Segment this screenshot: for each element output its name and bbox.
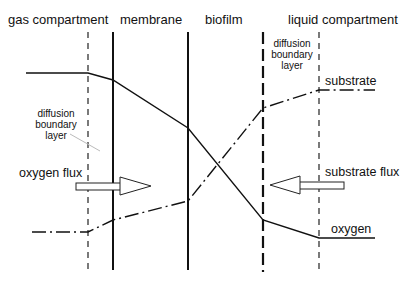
dbl-right-line2: boundary: [265, 49, 319, 60]
dbl-left-line2: boundary: [30, 119, 82, 130]
substrate-profile: [32, 90, 375, 232]
substrate-flux-label: substrate flux: [325, 166, 399, 179]
substrate-label: substrate: [325, 75, 376, 88]
dbl-right-line1: diffusion: [265, 38, 319, 49]
header-gas-compartment: gas compartment: [8, 13, 108, 26]
biofilm-diagram: gas compartment membrane biofilm liquid …: [0, 0, 420, 285]
oxygen-flux-label: oxygen flux: [19, 167, 82, 180]
header-liquid-compartment: liquid compartment: [288, 13, 398, 26]
oxygen-label: oxygen: [331, 223, 371, 236]
dbl-right-line3: layer: [265, 60, 319, 71]
right-dbl-label: diffusion boundary layer: [265, 38, 319, 71]
header-membrane: membrane: [120, 13, 182, 26]
dbl-left-line3: layer: [30, 130, 82, 141]
left-dbl-label: diffusion boundary layer: [30, 108, 82, 141]
oxygen-profile: [26, 73, 375, 238]
diagram-lines: [0, 0, 420, 285]
header-biofilm: biofilm: [205, 13, 243, 26]
dbl-left-line1: diffusion: [30, 108, 82, 119]
